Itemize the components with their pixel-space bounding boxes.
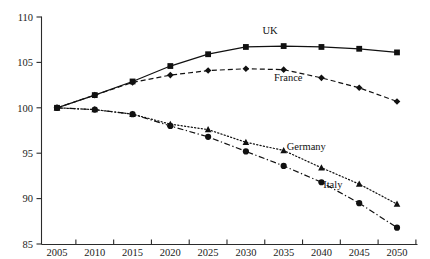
series-label-france: France (274, 72, 303, 83)
x-tick-label: 2040 (311, 247, 332, 258)
y-tick-label: 90 (23, 193, 34, 204)
data-point-uk-2025 (205, 51, 211, 57)
data-point-italy-2045 (356, 200, 362, 206)
line-chart: 859095100105110 200520102015202020252030… (0, 0, 430, 259)
data-point-italy-2030 (243, 148, 249, 154)
series-label-germany: Germany (287, 141, 327, 152)
data-point-uk-2020 (167, 63, 173, 69)
data-point-uk-2045 (356, 46, 362, 52)
y-tick-label: 105 (17, 57, 33, 68)
data-point-france-2025 (205, 67, 212, 74)
data-point-uk-2040 (319, 44, 325, 50)
data-point-italy-2050 (394, 225, 400, 231)
data-point-uk-2030 (243, 44, 249, 50)
data-point-germany-2040 (318, 164, 325, 170)
data-point-italy-2005 (54, 105, 60, 111)
series-line-uk (57, 46, 397, 108)
series-layer (57, 46, 397, 228)
x-tick-label: 2030 (235, 247, 256, 258)
data-point-italy-2015 (129, 111, 135, 117)
data-point-france-2020 (167, 72, 174, 79)
x-tick-label: 2020 (160, 247, 181, 258)
x-axis-ticks: 2005201020152020202520302035204020452050 (47, 240, 416, 259)
data-point-france-2030 (243, 65, 250, 72)
data-point-germany-2050 (394, 201, 401, 207)
data-point-france-2040 (318, 75, 325, 82)
data-point-uk-2050 (394, 50, 400, 56)
data-point-france-2045 (356, 85, 363, 92)
data-point-italy-2035 (281, 163, 287, 169)
chart-container: 859095100105110 200520102015202020252030… (0, 0, 430, 259)
x-tick-label: 2045 (349, 247, 370, 258)
data-point-italy-2010 (92, 107, 98, 113)
x-tick-label: 2010 (84, 247, 105, 258)
x-tick-label: 2035 (273, 247, 294, 258)
y-axis-ticks: 859095100105110 (17, 12, 41, 250)
series-line-italy (57, 108, 397, 228)
x-tick-label: 2005 (47, 247, 68, 258)
y-tick-label: 85 (23, 239, 34, 250)
x-tick-label: 2015 (122, 247, 143, 258)
series-label-uk: UK (262, 25, 278, 36)
data-point-italy-2020 (167, 123, 173, 129)
series-line-france (57, 69, 397, 108)
x-tick-label: 2025 (198, 247, 219, 258)
data-point-italy-2025 (205, 134, 211, 140)
x-tick-label: 2050 (387, 247, 408, 258)
series-annotations: UKFranceGermanyItaly (262, 25, 343, 189)
marker-layer (54, 43, 401, 231)
data-point-uk-2035 (281, 43, 287, 49)
series-label-italy: Italy (323, 179, 343, 190)
data-point-germany-2045 (356, 181, 363, 187)
y-tick-label: 95 (23, 148, 34, 159)
y-tick-label: 110 (18, 12, 33, 23)
data-point-france-2050 (394, 98, 401, 105)
series-line-germany (57, 108, 397, 204)
y-tick-label: 100 (17, 103, 33, 114)
